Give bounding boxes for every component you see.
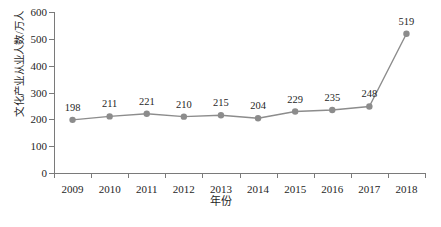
- data-point: [69, 117, 75, 123]
- data-point: [292, 108, 298, 114]
- x-tick: [240, 173, 241, 178]
- y-tick-label: 300: [31, 87, 48, 98]
- x-tick: [128, 173, 129, 178]
- data-point-label: 198: [65, 102, 81, 113]
- data-point: [218, 112, 224, 118]
- data-point: [144, 111, 150, 117]
- x-tick: [165, 173, 166, 178]
- line-chart: 文化产业从业人数/万人 0100200300400500600 20092010…: [0, 0, 441, 227]
- data-point: [366, 103, 372, 109]
- data-point: [255, 115, 261, 121]
- x-tick: [388, 173, 389, 178]
- data-point-label: 215: [213, 98, 229, 109]
- data-point-label: 248: [361, 89, 377, 100]
- data-point-label: 229: [287, 94, 303, 105]
- x-tick: [425, 173, 426, 178]
- x-axis-title: 年份: [0, 192, 441, 208]
- x-tick: [54, 173, 55, 178]
- x-tick: [202, 173, 203, 178]
- data-point-label: 211: [102, 99, 117, 110]
- x-tick: [351, 173, 352, 178]
- y-axis-title: 文化产业从业人数/万人: [11, 0, 26, 134]
- data-point-label: 519: [399, 16, 415, 27]
- series-markers: [69, 31, 409, 124]
- data-point: [106, 113, 112, 119]
- data-point-label: 210: [176, 99, 192, 110]
- data-point-label: 204: [250, 101, 266, 112]
- y-tick-label: 100: [31, 141, 48, 152]
- x-tick: [314, 173, 315, 178]
- data-point-label: 235: [324, 92, 340, 103]
- x-tick: [277, 173, 278, 178]
- data-point: [181, 113, 187, 119]
- plot-area: 0100200300400500600 20092010201120122013…: [54, 12, 425, 173]
- series-polyline: [73, 34, 407, 120]
- data-point: [329, 107, 335, 113]
- y-tick-label: 500: [31, 33, 48, 44]
- data-point: [403, 31, 409, 37]
- y-tick-label: 600: [31, 7, 48, 18]
- y-tick-label: 0: [42, 168, 48, 179]
- data-point-label: 221: [139, 96, 155, 107]
- x-tick: [91, 173, 92, 178]
- y-tick-label: 200: [31, 114, 48, 125]
- y-tick-label: 400: [31, 60, 48, 71]
